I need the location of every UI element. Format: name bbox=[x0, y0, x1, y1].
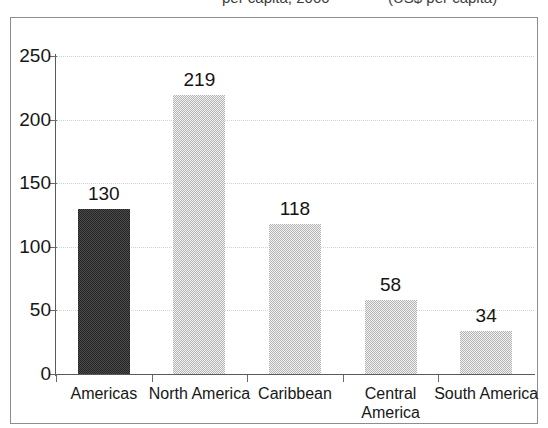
bar-value-label-4: 34 bbox=[456, 306, 516, 325]
bar-value-label-0: 130 bbox=[74, 184, 134, 203]
caption-left-fragment: per capita, 2000 bbox=[222, 0, 330, 6]
x-axis-category-label-1: North America bbox=[144, 384, 254, 403]
y-axis-label-200: 200 bbox=[13, 110, 51, 129]
x-axis-category-label-3: Central America bbox=[336, 384, 446, 422]
y-axis-label-50: 50 bbox=[13, 300, 51, 319]
bar-1[interactable] bbox=[173, 95, 225, 374]
x-tick-2 bbox=[343, 375, 344, 382]
y-axis-label-250: 250 bbox=[13, 46, 51, 65]
bar-0[interactable] bbox=[78, 209, 130, 374]
y-axis-label-100: 100 bbox=[13, 237, 51, 256]
x-tick-origin bbox=[56, 375, 57, 382]
x-tick-0 bbox=[152, 375, 153, 382]
x-axis-category-label-2: Caribbean bbox=[240, 384, 350, 403]
y-axis-label-0: 0 bbox=[13, 364, 51, 383]
bar-value-label-3: 58 bbox=[361, 275, 421, 294]
bar-2[interactable] bbox=[269, 224, 321, 374]
bar-value-label-2: 118 bbox=[265, 199, 325, 218]
x-axis-line bbox=[55, 374, 535, 375]
chart-figure-frame: 250200150100500 1302191185834 AmericasNo… bbox=[10, 17, 538, 424]
x-axis-category-label-4: South America bbox=[431, 384, 541, 403]
bar-4[interactable] bbox=[460, 331, 512, 374]
y-axis-labels-group: 250200150100500 bbox=[11, 18, 51, 418]
bar-3[interactable] bbox=[365, 300, 417, 374]
x-tick-1 bbox=[247, 375, 248, 382]
x-axis-category-label-0: Americas bbox=[49, 384, 159, 403]
caption-right-fragment: (US$ per capita) bbox=[388, 0, 497, 6]
bar-value-label-1: 219 bbox=[169, 70, 229, 89]
y-axis-label-150: 150 bbox=[13, 173, 51, 192]
top-caption-strip: per capita, 2000 (US$ per capita) bbox=[0, 0, 548, 14]
x-tick-3 bbox=[438, 375, 439, 382]
